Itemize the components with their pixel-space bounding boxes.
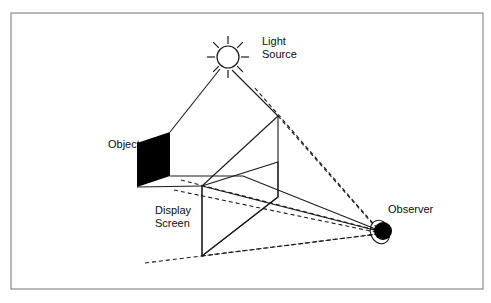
sight-line-upper-to-observer	[255, 88, 378, 229]
light-ray-to-object	[170, 69, 220, 132]
display-screen-label-line2: Screen	[155, 217, 190, 229]
object-label: Object	[108, 138, 140, 150]
object-bottom-edge-to-screen	[137, 186, 202, 187]
light-ray-to-apex	[232, 70, 278, 116]
sun-ray	[237, 42, 243, 48]
sun-ray	[237, 66, 243, 72]
observer-label: Observer	[388, 203, 434, 215]
screen-top-edge-to-observer	[243, 176, 378, 230]
optics-diagram: Light Source Object Display Screen Obser…	[0, 0, 491, 303]
sight-line-apex-to-observer	[278, 116, 378, 230]
figure-border	[11, 13, 483, 289]
figure-root: Light Source Object Display Screen Obser…	[0, 0, 491, 303]
sun-icon	[207, 36, 249, 78]
sun-ray	[213, 42, 219, 48]
observer-eye-pupil	[374, 222, 392, 240]
light-source-label-line1: Light	[262, 35, 286, 47]
display-screen-label-line1: Display	[155, 204, 192, 216]
sun-disc	[217, 46, 239, 68]
light-source-label-line2: Source	[262, 48, 297, 60]
shadow-top-to-observer	[202, 186, 378, 231]
object-panel	[137, 132, 170, 187]
